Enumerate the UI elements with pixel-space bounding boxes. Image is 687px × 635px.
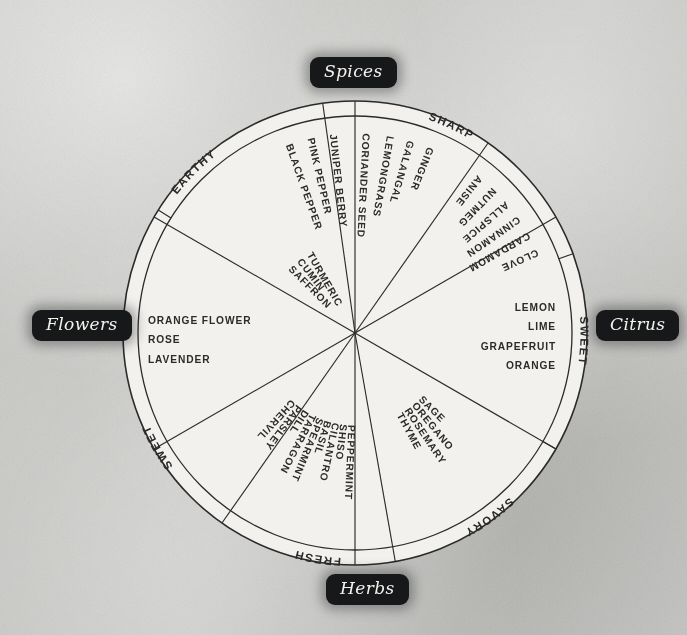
ring-label-sweet-spice: SWEET (576, 316, 590, 367)
item-lavender: LAVENDER (148, 354, 210, 365)
badge-citrus[interactable]: Citrus (596, 310, 679, 341)
badge-spices[interactable]: Spices (310, 57, 397, 88)
item-orange-flower: ORANGE FLOWER (148, 315, 251, 326)
item-lemon: LEMON (515, 302, 556, 313)
item-grapefruit: GRAPEFRUIT (481, 341, 556, 352)
item-rose: ROSE (148, 334, 180, 345)
item-orange: ORANGE (506, 360, 556, 371)
badge-flowers[interactable]: Flowers (32, 310, 132, 341)
item-lime: LIME (528, 321, 556, 332)
badge-herbs[interactable]: Herbs (326, 574, 409, 605)
